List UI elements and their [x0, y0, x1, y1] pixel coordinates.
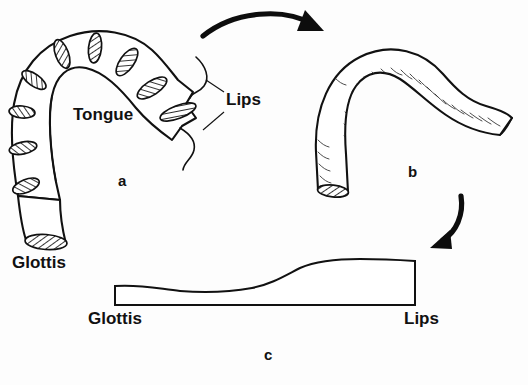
arrow-a-to-b-head [297, 10, 324, 31]
lips-leader-upper [206, 80, 224, 92]
lips-leader-lower [203, 112, 224, 130]
panel-b-group: b [316, 49, 512, 198]
figure-root: Tongue Lips Glottis a [0, 0, 528, 385]
arrow-a-to-b [203, 10, 324, 36]
lips-label-c: Lips [404, 309, 439, 328]
panel-letter-c: c [264, 346, 272, 363]
arrow-a-to-b-shaft [203, 14, 312, 36]
panel-letter-b: b [408, 163, 417, 180]
panel-c-group: Glottis Lips c [88, 259, 439, 363]
arrow-b-to-c [430, 196, 462, 249]
area-function-profile-c [115, 259, 415, 305]
arrow-b-to-c-head [430, 230, 452, 249]
lower-lip-curve-a [180, 128, 194, 170]
lips-label-a: Lips [226, 90, 261, 109]
tongue-label: Tongue [73, 105, 133, 124]
arrow-b-to-c-shaft [443, 196, 462, 240]
panel-a-group: Tongue Lips Glottis a [8, 31, 261, 272]
vocal-tract-figure: Tongue Lips Glottis a [0, 0, 528, 385]
glottis-label-a: Glottis [12, 253, 66, 272]
glottis-label-c: Glottis [88, 309, 142, 328]
panel-letter-a: a [118, 172, 127, 189]
